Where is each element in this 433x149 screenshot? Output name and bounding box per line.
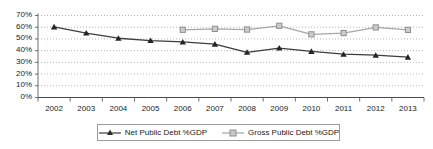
data-point-marker: [309, 32, 314, 37]
data-series-layer: [51, 23, 411, 59]
legend-label-gross-public-debt: Gross Public Debt %GDP: [248, 129, 339, 137]
y-axis-tick-label: 70%: [0, 11, 32, 19]
gridlines: [38, 16, 424, 98]
legend-label-net-public-debt: Net Public Debt %GDP: [125, 129, 207, 137]
data-point-marker: [405, 27, 410, 32]
x-axis-tick-label: 2006: [167, 105, 199, 113]
x-axis-tick-label: 2007: [199, 105, 231, 113]
y-axis-tick-label: 60%: [0, 23, 32, 31]
x-axis-tick-label: 2010: [295, 105, 327, 113]
y-axis-tick-label: 40%: [0, 46, 32, 54]
legend-entry-gross-public-debt: Gross Public Debt %GDP: [221, 128, 339, 138]
data-point-marker: [244, 27, 249, 32]
x-axis-tick-label: 2002: [38, 105, 70, 113]
data-point-marker: [277, 23, 282, 28]
x-axis-tick-label: 2009: [263, 105, 295, 113]
chart-legend: Net Public Debt %GDP Gross Public Debt %…: [97, 124, 340, 141]
chart-container: 0%10%20%30%40%50%60%70% 2002200320042005…: [0, 0, 433, 149]
x-axis-tick-label: 2008: [231, 105, 263, 113]
x-axis-tick-label: 2012: [360, 105, 392, 113]
x-axis-tick-label: 2013: [392, 105, 424, 113]
data-point-marker: [180, 27, 185, 32]
y-axis-tick-label: 10%: [0, 81, 32, 89]
y-axis-tick-label: 0%: [0, 93, 32, 101]
x-axis-tick-label: 2011: [328, 105, 360, 113]
data-point-marker: [341, 30, 346, 35]
x-axis-tick-label: 2003: [70, 105, 102, 113]
y-axis-tick-label: 50%: [0, 34, 32, 42]
y-axis-tick-label: 20%: [0, 70, 32, 78]
legend-marker-gross-public-debt: [221, 128, 245, 138]
x-axis-tick-label: 2005: [135, 105, 167, 113]
y-axis-tick-label: 30%: [0, 58, 32, 66]
legend-marker-net-public-debt: [98, 128, 122, 138]
data-point-marker: [373, 25, 378, 30]
data-point-marker: [212, 26, 217, 31]
legend-entry-net-public-debt: Net Public Debt %GDP: [98, 128, 207, 138]
x-axis-tick-label: 2004: [102, 105, 134, 113]
